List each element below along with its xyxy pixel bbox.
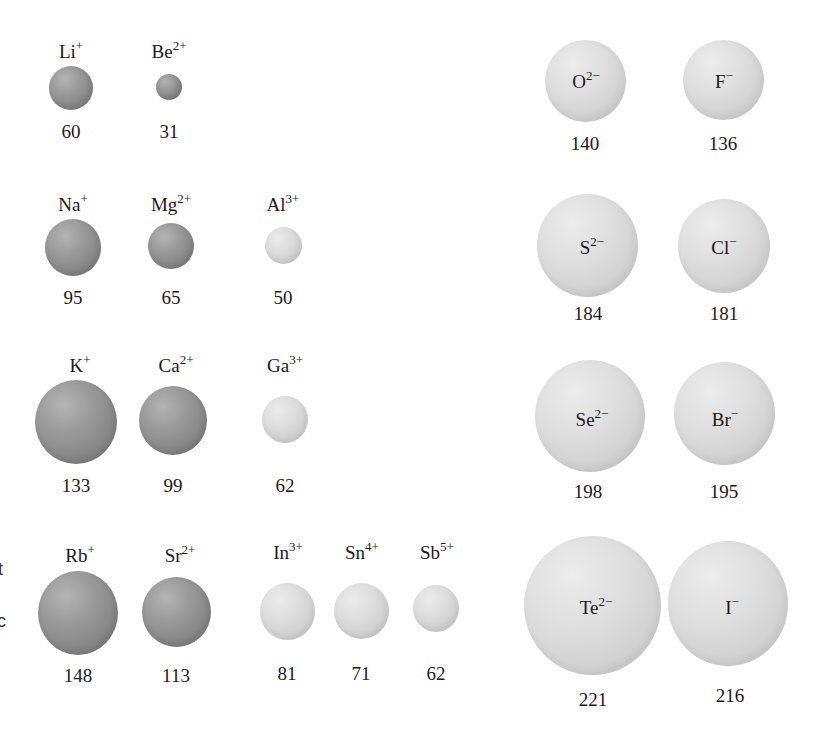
ionic-radius-value: 60 (62, 122, 81, 141)
cation-sphere (262, 396, 308, 443)
ionic-radii-figure: Li+ 60 Be2+ 31 Na+ 95 Mg2+ 65 Al3+ 50 K+… (0, 0, 821, 735)
ionic-radius-value: 133 (62, 476, 91, 495)
cation-sphere (265, 227, 302, 264)
ionic-radius-value: 62 (276, 476, 295, 495)
cropped-edge-text: t (0, 560, 3, 578)
ionic-radius-value: 50 (274, 288, 293, 307)
ion-symbol: O2− (572, 72, 600, 91)
ionic-radius-value: 221 (579, 690, 608, 709)
ionic-radius-value: 65 (162, 288, 181, 307)
cation-sphere (413, 585, 459, 632)
ion-symbol: Be2+ (152, 42, 187, 61)
ionic-radius-value: 113 (162, 666, 190, 685)
ion-symbol: I− (725, 598, 739, 617)
ion-symbol: Rb+ (65, 546, 95, 565)
ion-symbol: Na+ (58, 195, 88, 214)
ion-symbol: F− (715, 72, 733, 91)
ionic-radius-value: 184 (574, 304, 603, 323)
ionic-radius-value: 136 (709, 134, 738, 153)
cation-sphere (156, 74, 182, 100)
ionic-radius-value: 99 (164, 476, 183, 495)
ion-symbol: Ca2+ (159, 356, 194, 375)
cation-sphere (260, 583, 315, 640)
ion-symbol: S2− (580, 238, 604, 257)
ion-symbol: Ga3+ (267, 356, 303, 375)
ionic-radius-value: 198 (574, 482, 603, 501)
cation-sphere (38, 571, 118, 655)
cation-sphere (139, 386, 207, 455)
cropped-edge-text: c (0, 612, 6, 630)
ionic-radius-value: 95 (64, 288, 83, 307)
cation-sphere (334, 583, 389, 639)
cation-sphere (35, 380, 117, 464)
cation-sphere (49, 66, 93, 110)
ion-symbol: Sb5+ (420, 543, 454, 562)
ionic-radius-value: 148 (64, 666, 93, 685)
ionic-radius-value: 216 (716, 686, 745, 705)
ionic-radius-value: 81 (278, 664, 297, 683)
ionic-radius-value: 71 (352, 664, 371, 683)
ion-symbol: Br− (712, 410, 738, 429)
ion-symbol: Se2− (576, 410, 609, 429)
ionic-radius-value: 31 (160, 122, 179, 141)
ion-symbol: Sr2+ (165, 546, 196, 565)
ionic-radius-value: 195 (710, 482, 739, 501)
cation-sphere (45, 219, 101, 276)
ion-symbol: In3+ (273, 543, 303, 562)
cation-sphere (148, 223, 194, 269)
ionic-radius-value: 62 (427, 664, 446, 683)
ion-symbol: Li+ (59, 42, 83, 61)
ion-symbol: Cl− (711, 238, 736, 257)
ion-symbol: Al3+ (267, 195, 300, 214)
cation-sphere (142, 577, 211, 647)
ion-symbol: K+ (69, 356, 90, 375)
ion-symbol: Mg2+ (151, 195, 191, 214)
ionic-radius-value: 140 (571, 134, 600, 153)
ion-symbol: Te2− (580, 598, 613, 617)
ion-symbol: Sn4+ (345, 543, 379, 562)
ionic-radius-value: 181 (710, 304, 739, 323)
